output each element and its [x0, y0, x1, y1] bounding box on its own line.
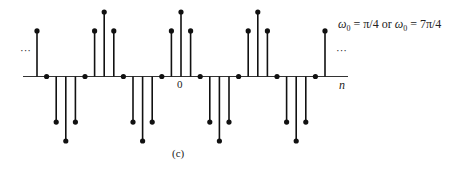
stem-sample: [207, 77, 212, 125]
stem-sample: [303, 77, 308, 125]
formula-part1: = π/4 or: [350, 17, 394, 31]
stem-sample: [274, 74, 279, 79]
stem-sample: [44, 74, 49, 79]
stem-sample: [188, 28, 193, 76]
stem-sample: [178, 9, 183, 76]
stem-sample: [111, 28, 116, 76]
stem-sample: [140, 77, 145, 144]
stem-sample: [73, 77, 78, 125]
stem-sample: [198, 74, 203, 79]
stem-sample: [236, 74, 241, 79]
stem-sample: [322, 28, 327, 76]
stem-sample: [226, 77, 231, 125]
formula-part2: = 7π/4: [407, 17, 441, 31]
stem-sample: [82, 74, 87, 79]
stem-sample: [294, 77, 299, 144]
origin-label: 0: [177, 78, 183, 90]
x-axis-label: n: [339, 78, 345, 93]
stem-sample: [246, 28, 251, 76]
stem-sample: [92, 28, 97, 76]
stem-sample: [217, 77, 222, 144]
stem-sample: [255, 9, 260, 76]
frequency-formula: ω0 = π/4 or ω0 = 7π/4: [338, 17, 441, 33]
ellipsis-right: ···: [336, 44, 347, 56]
stem-sample: [150, 77, 155, 125]
figure-caption: (c): [172, 147, 184, 159]
stem-sample: [169, 28, 174, 76]
ellipsis-left: ···: [20, 44, 31, 56]
stem-sample: [102, 9, 107, 76]
stem-sample: [265, 28, 270, 76]
stem-sample: [34, 28, 39, 76]
stem-sample: [121, 74, 126, 79]
omega-symbol-2: ω: [395, 17, 403, 31]
stem-sample: [284, 77, 289, 125]
stem-sample: [313, 74, 318, 79]
stem-sample: [159, 74, 164, 79]
stem-sample: [130, 77, 135, 125]
stem-sample: [63, 77, 68, 144]
stem-sample: [54, 77, 59, 125]
